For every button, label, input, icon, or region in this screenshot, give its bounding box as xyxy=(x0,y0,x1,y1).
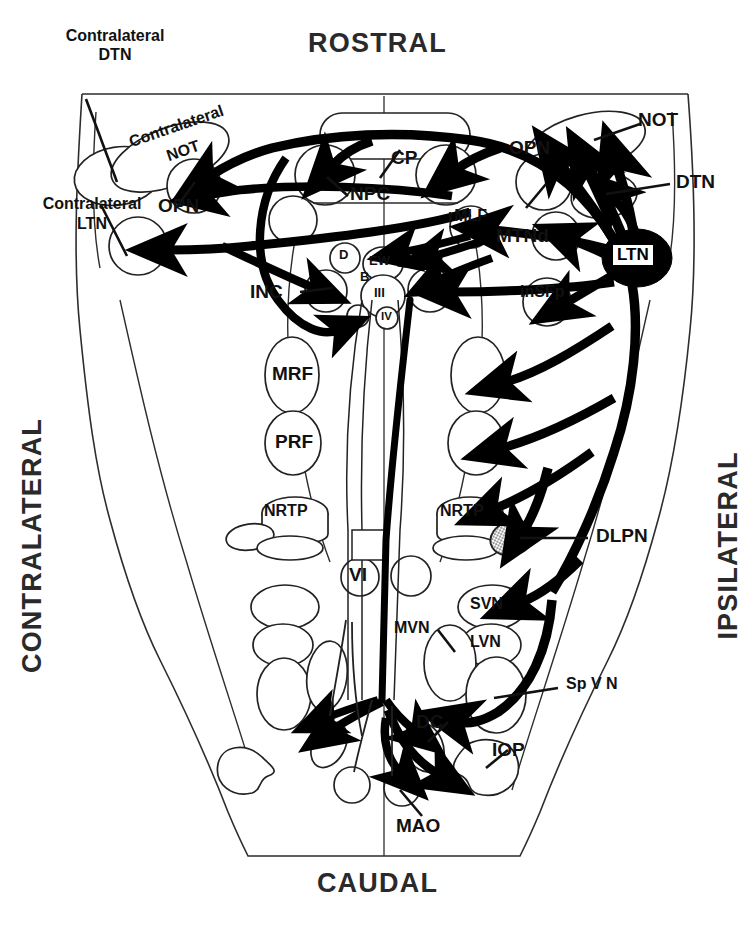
nucleus-mao-mirror xyxy=(334,767,370,803)
label-nrtp-right: NRTP xyxy=(440,503,484,519)
label-opn-left: OPN xyxy=(158,196,199,215)
label-opn-right: OPN xyxy=(509,138,550,157)
label-mtnd: MTNd xyxy=(496,226,549,245)
label-nrtp-left: NRTP xyxy=(264,503,308,519)
brainstem-schematic-svg xyxy=(0,0,755,932)
label-ew: EW xyxy=(369,254,390,267)
pathway-to-prf-mirror-lower xyxy=(502,398,614,448)
nucleus-nrtp-left-lobe2 xyxy=(257,536,323,560)
label-dtn: DTN xyxy=(676,172,715,191)
orientation-label-contralateral: CONTRALATERAL xyxy=(17,396,48,696)
pathway-to-prf-mirror-upper xyxy=(506,326,612,382)
label-ltn: LTN xyxy=(611,243,655,267)
label-npc: NPC xyxy=(350,184,390,203)
label-iop: IOP xyxy=(492,740,525,759)
label-iv: IV xyxy=(381,311,392,323)
label-vi: VI xyxy=(349,565,367,584)
pathway-to-svn xyxy=(522,560,580,602)
nucleus-mrf-mirror xyxy=(451,337,505,413)
label-contralateral-dtn-line1: Contralateral xyxy=(40,28,190,44)
pathway-to-dlpn xyxy=(524,468,548,530)
nucleus-vi-mirror xyxy=(391,556,431,596)
orientation-label-ipsilateral: IPSILATERAL xyxy=(713,396,744,696)
label-contralateral-ltn-line1: Contralateral xyxy=(18,196,166,212)
nucleus-spvn-mirror xyxy=(257,658,311,730)
label-d: D xyxy=(339,248,348,261)
nucleus-iop-mirror xyxy=(217,747,274,794)
label-dc: DC xyxy=(416,712,443,731)
label-mao: MAO xyxy=(396,816,440,835)
label-mvn: MVN xyxy=(394,620,430,636)
label-mrf: MRF xyxy=(272,364,313,383)
nucleus-svn-mirror xyxy=(251,585,319,629)
pathway-ltn-to-iii xyxy=(438,258,492,280)
label-contralateral-dtn-line2: DTN xyxy=(40,47,190,63)
label-dlpn: DLPN xyxy=(596,526,648,545)
nucleus-nrtp-right-lobe xyxy=(433,536,499,560)
label-spvn: Sp V N xyxy=(566,676,618,692)
label-b: B xyxy=(360,270,369,283)
nucleus-mao xyxy=(384,770,420,806)
label-contralateral-ltn-line2: LTN xyxy=(18,216,166,232)
label-inc: INC xyxy=(250,282,283,301)
label-iii: III xyxy=(374,286,385,299)
label-prf: PRF xyxy=(275,432,313,451)
figure-canvas: ROSTRAL CAUDAL CONTRALATERAL IPSILATERAL… xyxy=(0,0,755,932)
label-rmlf: rMLF xyxy=(448,208,487,224)
label-cp: CP xyxy=(391,148,417,167)
orientation-label-caudal: CAUDAL xyxy=(0,868,755,899)
label-not: NOT xyxy=(638,110,678,129)
mlf-tracts xyxy=(347,300,404,700)
label-insfp: inSFp xyxy=(520,284,564,300)
nucleus-prf-mirror xyxy=(448,411,504,475)
label-lvn: LVN xyxy=(470,634,501,650)
label-svn: SVN xyxy=(470,596,503,612)
